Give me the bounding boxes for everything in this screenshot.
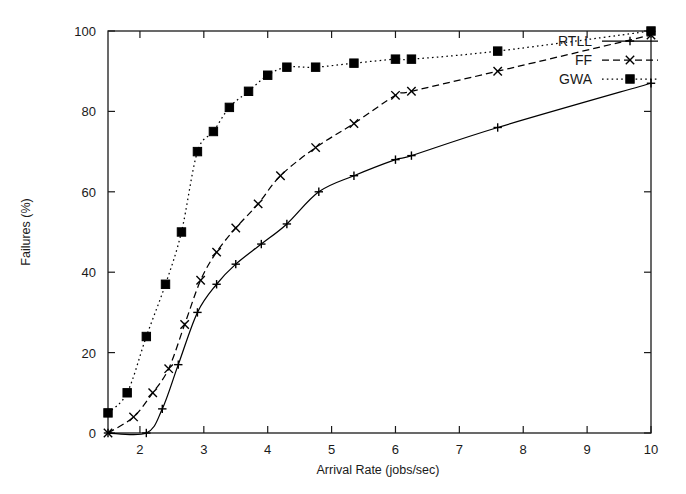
line-chart: 2345678910 020406080100 RTLLFFGWA Arriva… (0, 0, 686, 494)
y-tick-label: 0 (89, 426, 96, 441)
y-tick-label: 80 (82, 104, 96, 119)
legend-label-ff: FF (575, 52, 592, 68)
x-tick-label: 8 (520, 442, 527, 457)
y-tick-label: 60 (82, 185, 96, 200)
x-tick-label: 7 (456, 442, 463, 457)
chart-figure: 2345678910 020406080100 RTLLFFGWA Arriva… (0, 0, 686, 494)
axes-frame (108, 31, 651, 433)
x-axis-label: Arrival Rate (jobs/sec) (317, 463, 440, 477)
x-axis-ticks: 2345678910 (136, 31, 658, 457)
legend-label-rtll: RTLL (558, 33, 592, 49)
x-tick-label: 6 (392, 442, 399, 457)
legend-marker-rtll (626, 37, 634, 45)
chart-legend: RTLLFFGWA (558, 33, 658, 87)
x-tick-label: 4 (264, 442, 271, 457)
data-series-layer (104, 27, 655, 437)
y-axis-label: Failures (%) (19, 198, 33, 265)
legend-marker-gwa (626, 75, 634, 83)
x-tick-label: 5 (328, 442, 335, 457)
x-tick-label: 10 (644, 442, 658, 457)
legend-label-gwa: GWA (559, 71, 593, 87)
y-tick-label: 20 (82, 346, 96, 361)
series-ff (104, 31, 655, 437)
x-tick-label: 2 (136, 442, 143, 457)
y-tick-label: 100 (74, 24, 96, 39)
x-tick-label: 3 (200, 442, 207, 457)
x-tick-label: 9 (584, 442, 591, 457)
series-rtll (104, 79, 655, 437)
y-tick-label: 40 (82, 265, 96, 280)
